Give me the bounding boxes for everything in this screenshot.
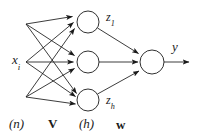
hidden-count-label: (h) (79, 117, 94, 130)
network-graphic (0, 0, 198, 138)
input-label-subscript: i (18, 62, 20, 72)
edge-x1-z1 (26, 17, 73, 25)
edges-input-to-hidden (26, 17, 77, 105)
weight-vector-w-label: w (116, 118, 125, 131)
edge-x3-z1 (26, 29, 75, 98)
edge-z1-y (98, 28, 139, 54)
edges-hidden-to-output (98, 28, 140, 94)
edge-x1-zh (26, 24, 77, 94)
hidden-node-z1 (77, 11, 99, 33)
hidden-label-z1-subscript: 1 (111, 19, 115, 28)
output-label-y: y (172, 40, 178, 53)
input-label: xi (12, 53, 20, 69)
hidden-nodes (77, 11, 99, 111)
neural-network-diagram: xi z1 zh y (n) V (h) w (0, 0, 198, 138)
edge-x3-z2 (26, 69, 75, 98)
hidden-node-zh (77, 89, 99, 111)
hidden-label-zh-subscript: h (111, 102, 115, 111)
hidden-node-z2 (77, 51, 99, 73)
output-node-y (140, 50, 164, 74)
hidden-label-z1: z1 (106, 11, 115, 27)
edge-x2-zh (26, 62, 76, 97)
output-node-group (140, 50, 189, 74)
weight-matrix-v-label: V (48, 117, 57, 130)
hidden-label-zh: zh (106, 94, 115, 110)
edge-x1-z2 (26, 24, 75, 56)
input-count-label: (n) (9, 117, 24, 130)
edge-zh-y (98, 71, 140, 94)
edge-x3-zh (26, 97, 76, 104)
